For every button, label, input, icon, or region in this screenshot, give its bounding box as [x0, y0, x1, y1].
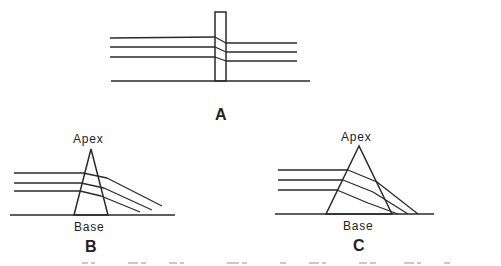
panel-b-drawing: [10, 149, 175, 215]
panel-c-base-label: Base: [343, 219, 374, 233]
diagram-canvas: A Apex Base B Apex Base C: [0, 0, 501, 266]
panel-b-triangle: [74, 149, 108, 215]
panel-a-drawing: [110, 12, 310, 81]
panel-b-layer-line-1: [14, 173, 162, 206]
panel-c-label: C: [353, 237, 365, 255]
panel-b-label: B: [85, 238, 97, 256]
panel-b-base-label: Base: [74, 220, 105, 234]
panel-a-intrusion-rect: [215, 12, 226, 81]
panel-c-drawing: [275, 146, 434, 214]
panel-b-apex-label: Apex: [73, 132, 104, 146]
panel-c-apex-label: Apex: [341, 130, 372, 144]
truncated-caption: [0, 262, 501, 266]
panel-a-layer-line-1: [110, 37, 297, 43]
panel-c-layer-line-3: [278, 190, 398, 214]
panel-a-layer-line-2: [110, 47, 297, 52]
panel-b-layer-line-2: [14, 183, 152, 210]
panel-a-layer-line-3: [110, 57, 297, 61]
panel-a-label: A: [215, 106, 227, 124]
panel-c-layer-line-2: [278, 180, 408, 214]
